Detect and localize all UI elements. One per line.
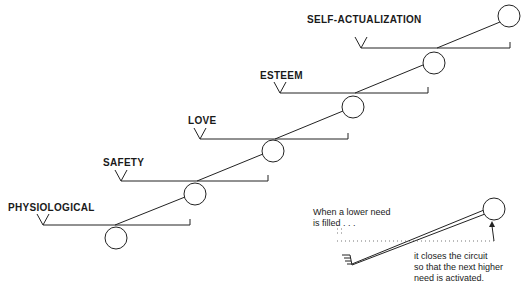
needs-hierarchy-diagram: PHYSIOLOGICAL SAFETY LOVE ESTEEM SELF-AC… [0,0,531,285]
inset-note-top: When a lower need is filled . . . [313,207,391,229]
lever-line [115,197,185,225]
v-marker-icon [355,37,367,48]
level-love [194,128,348,162]
v-marker-icon [194,128,206,139]
staircase-drawing [0,0,531,285]
level-self-actualization [355,37,510,74]
arrow-shaft [492,226,494,241]
top-switch-circle-icon [498,5,520,27]
level-label-esteem: ESTEEM [260,70,303,81]
note-line: When a lower need [313,207,391,218]
level-label-safety: SAFETY [103,157,144,168]
note-line: so that the next higher [414,262,503,273]
note-line: it closes the circuit [414,251,503,262]
switch-circle-icon [105,227,127,249]
v-marker-icon [115,170,127,181]
level-safety [115,170,268,205]
level-label-love: LOVE [188,115,216,126]
level-label-physiological: PHYSIOLOGICAL [8,202,95,213]
inset-circle-icon [483,198,505,220]
lever-line [197,154,263,181]
level-physiological [37,214,190,249]
v-marker-icon [274,82,286,93]
switch-circle-icon [423,52,445,74]
level-esteem [274,82,428,118]
note-line: need is activated. [414,273,503,284]
lever-line [275,111,343,139]
note-line: is filled . . . [313,218,391,229]
lever-line [437,22,500,48]
switch-circle-icon [184,183,206,205]
inset-note-bottom: it closes the circuit so that the next h… [414,251,503,284]
level-label-self-actualization: SELF-ACTUALIZATION [307,14,422,25]
arrow-up-icon [489,221,495,227]
switch-circle-icon [342,96,364,118]
lever-line [355,65,423,93]
v-marker-icon [37,214,49,225]
pivot-hatch-icon [342,255,352,265]
switch-circle-icon [262,140,284,162]
